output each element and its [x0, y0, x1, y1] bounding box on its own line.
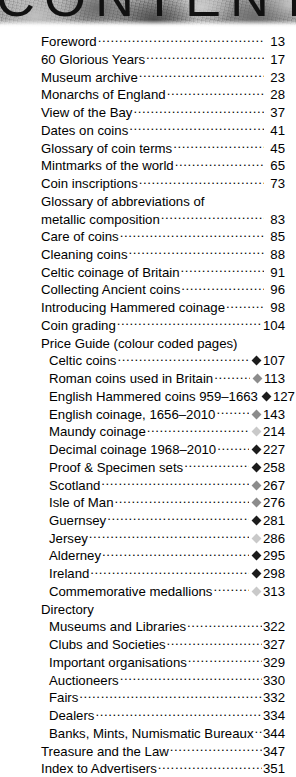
toc-entry[interactable]: English coinage, 1656–2010143 — [41, 405, 285, 423]
contents-header-banner: CONTENTS — [0, 0, 296, 27]
toc-entry[interactable]: Clubs and Societies327 — [41, 636, 285, 654]
toc-entry-label: Roman coins used in Britain — [49, 371, 213, 388]
toc-entry[interactable]: Introducing Hammered coinage98 — [41, 299, 285, 317]
colour-code-swatch — [253, 518, 263, 525]
toc-entry[interactable]: Cleaning coins88 — [41, 246, 285, 264]
toc-entry[interactable]: Isle of Man276 — [41, 494, 285, 512]
toc-entry[interactable]: English Hammered coins 959–1663127 — [41, 388, 285, 406]
toc-entry[interactable]: Ireland298 — [41, 565, 285, 583]
toc-leader-dots — [226, 299, 264, 312]
toc-leader-dots — [95, 601, 284, 614]
toc-leader-dots — [95, 707, 262, 720]
colour-code-swatch — [253, 447, 263, 454]
toc-leader-dots — [129, 122, 264, 135]
toc-page-number: 85 — [265, 229, 285, 246]
toc-leader-dots — [184, 459, 249, 472]
toc-entry[interactable]: Care of coins85 — [41, 228, 285, 246]
toc-leader-dots — [101, 476, 249, 489]
toc-page-number: 330 — [263, 673, 285, 690]
toc-page-number: 295 — [263, 548, 285, 565]
toc-entry[interactable]: Alderney295 — [41, 547, 285, 565]
diamond-icon — [253, 374, 263, 384]
toc-leader-dots — [89, 530, 249, 543]
toc-page-number: 88 — [265, 247, 285, 264]
toc-entry-label: Important organisations — [49, 655, 187, 672]
toc-entry[interactable]: Collecting Ancient coins96 — [41, 281, 285, 299]
toc-page-number: 113 — [264, 371, 285, 388]
toc-page-number: 98 — [265, 300, 285, 317]
toc-entry[interactable]: Coin grading104 — [41, 317, 285, 335]
diamond-icon — [252, 516, 262, 526]
colour-code-swatch — [253, 589, 263, 596]
toc-entry[interactable]: Treasure and the Law347 — [41, 742, 285, 760]
colour-code-swatch — [254, 376, 264, 383]
toc-entry[interactable]: Banks, Mints, Numismatic Bureaux344 — [41, 725, 285, 743]
toc-entry[interactable]: Roman coins used in Britain113 — [41, 370, 285, 388]
toc-page-number: 127 — [273, 389, 295, 406]
toc-page-number: 332 — [263, 690, 285, 707]
toc-leader-dots — [98, 33, 264, 46]
toc-page-number: 298 — [263, 566, 285, 583]
toc-leader-dots — [181, 281, 264, 294]
toc-section-heading: Price Guide (colour coded pages) — [41, 334, 285, 352]
toc-leader-dots — [181, 264, 264, 277]
toc-page-number: 96 — [265, 282, 285, 299]
toc-entry[interactable]: Celtic coins107 — [41, 352, 285, 370]
toc-page-number: 45 — [265, 141, 285, 158]
colour-code-swatch — [263, 394, 273, 401]
toc-leader-dots — [102, 547, 249, 560]
toc-entry-label: Introducing Hammered coinage — [41, 300, 225, 317]
toc-entry[interactable]: Guernsey281 — [41, 512, 285, 530]
diamond-icon — [252, 356, 262, 366]
diamond-icon — [252, 569, 262, 579]
toc-entry[interactable]: Monarchs of England28 — [41, 86, 285, 104]
toc-entry[interactable]: Foreword13 — [41, 33, 285, 51]
colour-code-swatch — [253, 465, 263, 472]
toc-leader-dots — [173, 139, 264, 152]
toc-entry[interactable]: Fairs332 — [41, 689, 285, 707]
toc-entry[interactable]: Index to Advertisers351 — [41, 760, 285, 777]
toc-page-number: 13 — [265, 34, 285, 51]
toc-leader-dots — [161, 210, 264, 223]
toc-entry: Glossary of abbreviations of — [41, 193, 285, 211]
toc-page-number: 281 — [263, 513, 285, 530]
toc-entry-label: Celtic coinage of Britain — [41, 265, 180, 282]
toc-entry-label: English Hammered coins 959–1663 — [49, 389, 258, 406]
toc-entry[interactable]: View of the Bay37 — [41, 104, 285, 122]
toc-entry[interactable]: Important organisations329 — [41, 654, 285, 672]
toc-entry[interactable]: Mintmarks of the world65 — [41, 157, 285, 175]
toc-entry-label: Dates on coins — [41, 123, 128, 140]
toc-entry[interactable]: Jersey286 — [41, 530, 285, 548]
toc-entry[interactable]: Dealers334 — [41, 707, 285, 725]
toc-entry-label: Price Guide (colour coded pages) — [41, 336, 237, 353]
toc-entry[interactable]: Museums and Libraries322 — [41, 618, 285, 636]
toc-leader-dots — [216, 405, 249, 418]
colour-code-swatch — [253, 429, 263, 436]
toc-entry-label: Isle of Man — [49, 495, 114, 512]
toc-leader-dots — [238, 334, 284, 347]
toc-entry[interactable]: Auctioneers330 — [41, 671, 285, 689]
toc-page-number: 73 — [265, 176, 285, 193]
toc-entry[interactable]: Celtic coinage of Britain91 — [41, 264, 285, 282]
toc-page-number: 28 — [265, 87, 285, 104]
toc-entry[interactable]: Scotland267 — [41, 476, 285, 494]
toc-entry[interactable]: Decimal coinage 1968–2010227 — [41, 441, 285, 459]
toc-leader-dots — [217, 441, 249, 454]
toc-leader-dots — [213, 583, 249, 596]
toc-entry[interactable]: metallic composition83 — [41, 210, 285, 228]
toc-entry[interactable]: Commemorative medallions313 — [41, 583, 285, 601]
toc-entry[interactable]: Dates on coins41 — [41, 122, 285, 140]
toc-leader-dots — [205, 193, 284, 206]
toc-entry[interactable]: Coin inscriptions73 — [41, 175, 285, 193]
toc-entry-label: 60 Glorious Years — [41, 52, 145, 69]
toc-entry[interactable]: Maundy coinage214 — [41, 423, 285, 441]
toc-entry-label: Index to Advertisers — [41, 761, 157, 777]
toc-entry[interactable]: Glossary of coin terms45 — [41, 139, 285, 157]
toc-leader-dots — [139, 175, 264, 188]
toc-entry[interactable]: Museum archive23 — [41, 68, 285, 86]
toc-page-number: 91 — [265, 265, 285, 282]
diamond-icon — [252, 409, 262, 419]
toc-entry[interactable]: 60 Glorious Years17 — [41, 51, 285, 69]
toc-page-number: 327 — [263, 637, 285, 654]
toc-entry[interactable]: Proof & Specimen sets258 — [41, 459, 285, 477]
